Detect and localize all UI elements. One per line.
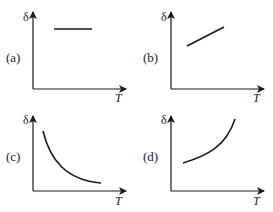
x-axis-label: T xyxy=(253,194,261,208)
decaying-curve xyxy=(43,131,101,183)
panel-label: (d) xyxy=(143,149,158,164)
panel-label: (a) xyxy=(6,50,20,65)
x-axis-label: T xyxy=(253,91,261,105)
panel-c: δ T (c) xyxy=(6,113,126,208)
panel-d: δ T (d) xyxy=(143,113,264,208)
panel-label: (b) xyxy=(143,50,158,65)
growing-curve xyxy=(183,119,235,163)
y-axis-label: δ xyxy=(161,113,167,127)
delta-vs-t-figure: δ T (a) δ T (b) δ T (c) δ T (d) xyxy=(0,0,273,212)
x-axis-label: T xyxy=(115,91,123,105)
panel-b: δ T (b) xyxy=(143,10,264,105)
x-axis-label: T xyxy=(115,194,123,208)
panel-label: (c) xyxy=(6,149,20,164)
y-axis-label: δ xyxy=(161,10,167,24)
panel-a: δ T (a) xyxy=(6,10,126,105)
linear-increasing-curve xyxy=(187,27,224,46)
y-axis-label: δ xyxy=(23,113,29,127)
y-axis-label: δ xyxy=(23,10,29,24)
